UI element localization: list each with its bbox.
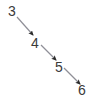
node-label-4: 4 [31,36,39,50]
edge-4-to-5 [41,45,56,60]
chain-diagram: 3 4 5 6 [0,0,91,99]
node-label-6: 6 [78,83,86,97]
edge-3-to-4 [17,17,33,35]
node-label-5: 5 [55,60,63,74]
node-label-3: 3 [8,4,16,18]
